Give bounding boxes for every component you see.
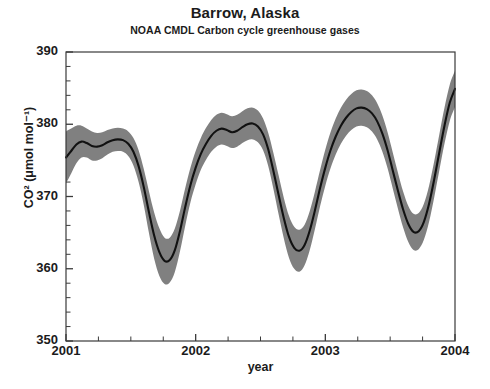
x-tick-label: 2002: [166, 343, 226, 358]
x-tick-label: 2003: [295, 343, 355, 358]
x-tick-label: 2001: [36, 343, 96, 358]
plot-area: [0, 0, 490, 389]
y-tick-label: 380: [14, 115, 58, 130]
y-tick-label: 360: [14, 260, 58, 275]
y-tick-label: 370: [14, 188, 58, 203]
y-tick-label: 390: [14, 43, 58, 58]
x-tick-label: 2004: [425, 343, 485, 358]
uncertainty-band: [66, 71, 455, 285]
chart-figure: Barrow, Alaska NOAA CMDL Carbon cycle gr…: [0, 0, 490, 389]
